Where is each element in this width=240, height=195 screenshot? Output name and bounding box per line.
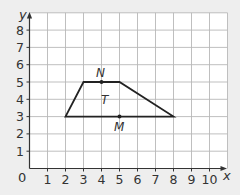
diagram-canvas: 1234567891012345678 y x 0 T N M <box>0 0 240 195</box>
y-axis-label: y <box>18 7 27 22</box>
x-tick-label: 5 <box>116 172 124 187</box>
x-tick-label: 6 <box>134 172 142 187</box>
y-tick-label: 5 <box>16 75 24 90</box>
x-tick-label: 9 <box>188 172 196 187</box>
x-tick-label: 8 <box>170 172 178 187</box>
x-tick-label: 2 <box>62 172 70 187</box>
y-tick-label: 6 <box>16 57 24 72</box>
origin-label: 0 <box>18 170 26 185</box>
y-tick-label: 8 <box>16 23 24 38</box>
point-label-M: M <box>114 120 125 134</box>
y-tick-label: 2 <box>16 126 24 141</box>
y-tick-label: 7 <box>16 40 24 55</box>
y-tick-label: 1 <box>16 144 24 159</box>
point-label-N: N <box>96 66 105 80</box>
point-M <box>118 115 122 119</box>
x-axis-label: x <box>222 168 231 183</box>
x-tick-label: 3 <box>80 172 88 187</box>
x-tick-label: 4 <box>98 172 106 187</box>
coordinate-grid: 1234567891012345678 y x 0 T N M <box>0 0 240 195</box>
x-tick-label: 1 <box>44 172 52 187</box>
point-N <box>100 80 104 84</box>
grid-area <box>30 13 228 169</box>
x-tick-label: 10 <box>202 172 218 187</box>
y-tick-label: 4 <box>16 92 24 107</box>
x-tick-label: 7 <box>152 172 160 187</box>
y-tick-label: 3 <box>16 109 24 124</box>
